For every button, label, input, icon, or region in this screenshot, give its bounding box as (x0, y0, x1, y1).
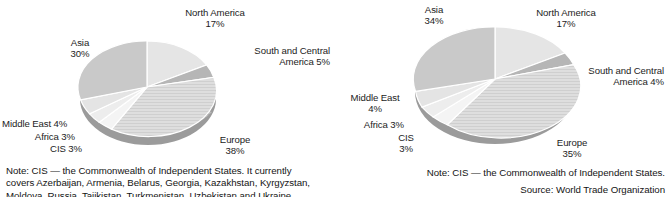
label-europe: Europe 38% (220, 134, 250, 156)
label-south-central-america-name: South and Central (254, 45, 330, 56)
label-africa: Africa 3% (35, 131, 75, 142)
label-europe-name: Europe (220, 134, 250, 145)
figure-root: North America 17% South and Central Amer… (0, 0, 667, 197)
label-south-central-america: South and Central America 4% (588, 65, 664, 87)
label-asia-value: 34% (425, 15, 444, 26)
label-south-central-america-value: America 4% (588, 76, 664, 87)
label-middle-east: Middle East 4% (2, 118, 67, 129)
label-north-america-name: North America (185, 7, 244, 18)
label-europe-value: 38% (220, 145, 250, 156)
label-north-america: North America 17% (185, 7, 244, 29)
label-africa: Africa 3% (364, 119, 404, 130)
label-north-america-value: 17% (185, 18, 244, 29)
left-chart-panel: North America 17% South and Central Amer… (0, 0, 334, 197)
left-note-line-3: Moldova, Russia, Tajikistan, Turkmenista… (6, 190, 310, 197)
label-europe: Europe 35% (557, 137, 587, 159)
label-middle-east-name: Middle East 4% (2, 118, 67, 129)
label-south-central-america: South and Central America 5% (254, 45, 330, 67)
label-africa-name: Africa 3% (35, 131, 75, 142)
label-asia: Asia 34% (425, 4, 444, 26)
label-south-central-america-name: South and Central (588, 65, 664, 76)
label-south-central-america-value: America 5% (254, 56, 330, 67)
label-cis: CIS 3% (50, 143, 82, 154)
right-note: Note: CIS — the Commonwealth of Independ… (427, 167, 665, 179)
left-pie-slices (78, 41, 217, 137)
left-note-line-1: Note: CIS — the Commonwealth of Independ… (6, 165, 310, 177)
right-note-line-1: Note: CIS — the Commonwealth of Independ… (427, 167, 665, 179)
label-asia-name: Asia (425, 4, 444, 15)
label-cis-name: CIS (398, 132, 414, 143)
left-note-line-2: covers Azerbaijan, Armenia, Belarus, Geo… (6, 177, 310, 189)
label-africa-name: Africa 3% (364, 119, 404, 130)
label-europe-name: Europe (557, 137, 587, 148)
label-cis-name: CIS 3% (50, 143, 82, 154)
label-middle-east-name: Middle East (350, 92, 399, 103)
source-credit-text: Source: World Trade Organization (520, 184, 665, 196)
label-asia: Asia 30% (71, 37, 90, 59)
label-north-america-value: 17% (536, 18, 595, 29)
label-asia-value: 30% (71, 48, 90, 59)
label-north-america: North America 17% (536, 7, 595, 29)
label-cis-value: 3% (398, 143, 414, 154)
left-note: Note: CIS — the Commonwealth of Independ… (6, 165, 310, 197)
label-asia-name: Asia (71, 37, 90, 48)
label-europe-value: 35% (557, 148, 587, 159)
label-middle-east-value: 4% (350, 103, 399, 114)
right-chart-panel: Asia 34% North America 17% South and Cen… (334, 0, 667, 197)
label-middle-east: Middle East 4% (350, 92, 399, 114)
source-credit: Source: World Trade Organization (520, 184, 665, 196)
label-cis: CIS 3% (398, 132, 414, 154)
label-north-america-name: North America (536, 7, 595, 18)
